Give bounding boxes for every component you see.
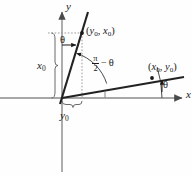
segment-y0-sub: 0 [65,114,69,123]
point-label-reflected: (y0, x0) [86,26,115,38]
paren-close: ) [173,61,177,72]
steep-ray [60,12,88,104]
point-marker-original [150,76,154,80]
geometry-figure: y x (y0, x0) (x0, y0) x0 y0 θ θ π 2 − θ [0,0,192,177]
minus-operator: − [101,58,107,68]
point-label-original: (x0, y0) [148,62,177,74]
segment-label-x0: x0 [37,60,46,72]
brace-y0 [62,101,82,108]
angle-label-theta-lower: θ [163,80,168,91]
fraction-denominator: 2 [93,64,97,72]
y-axis-label: y [66,1,71,12]
angle-label-theta-upper: θ [60,35,65,46]
brace-x0 [52,33,59,98]
segment-x0-sub: 0 [42,64,46,73]
x-axis-label: x [186,89,191,100]
paren-close: ) [111,25,115,36]
angle-label-complement: π 2 − θ [92,54,114,72]
fraction-numerator: π [93,54,97,62]
point-marker-reflected [80,31,84,35]
complement-theta: θ [109,58,114,69]
angle-arcs [77,53,163,98]
pi-over-two-fraction: π 2 [92,54,99,72]
segment-label-y0: y0 [60,110,69,122]
